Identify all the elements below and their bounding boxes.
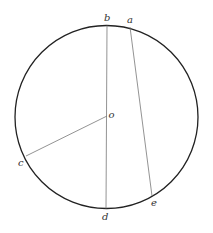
diameter-bd <box>106 26 107 209</box>
label-d: d <box>102 211 108 222</box>
label-o: o <box>109 109 115 120</box>
label-e: e <box>151 197 157 208</box>
label-a: a <box>127 14 133 25</box>
circle-diagram: b a o c d e <box>0 0 213 233</box>
label-c: c <box>18 157 24 168</box>
chord-ae <box>130 27 152 196</box>
label-b: b <box>104 12 110 23</box>
radius-oc <box>26 116 107 156</box>
